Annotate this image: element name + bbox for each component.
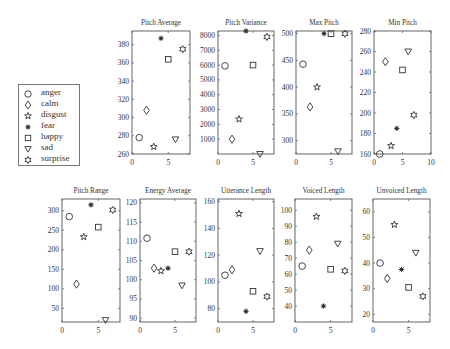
data-point-anger: [66, 213, 73, 220]
y-tick-label: 20: [363, 310, 371, 319]
data-point-sad: [334, 241, 341, 247]
y-tick-label: 2000: [200, 120, 215, 129]
panel-voiced-length: Voiced Length40506070809010005: [281, 187, 352, 335]
data-point-surprise: [180, 46, 186, 53]
square-marker-icon: [23, 133, 33, 143]
data-point-fear: [399, 267, 404, 272]
x-tick-label: 0: [60, 326, 64, 335]
hexagram-marker-icon: [23, 155, 33, 165]
legend: angercalmdisgustfearhappysadsurprise: [18, 84, 80, 166]
data-point-disgust: [314, 84, 321, 91]
x-tick-label: 5: [407, 326, 411, 335]
legend-label: surprise: [41, 153, 70, 163]
y-tick-label: 280: [118, 131, 130, 140]
x-tick-label: 0: [130, 158, 134, 167]
panel-title: Energy Average: [145, 187, 191, 195]
panel-pitch-variance: Pitch Variance10002000300040005000600070…: [200, 19, 274, 167]
y-tick-label: 350: [282, 109, 294, 118]
data-point-calm: [229, 135, 235, 143]
data-point-sad: [179, 283, 186, 289]
data-point-fear: [243, 28, 248, 33]
chart-canvas: Pitch Average26028030032034036038005Pitc…: [0, 0, 450, 349]
y-tick-label: 340: [118, 77, 130, 86]
data-point-surprise: [420, 293, 426, 300]
data-point-calm: [74, 280, 80, 288]
data-point-happy: [400, 67, 406, 73]
data-point-disgust: [236, 116, 243, 123]
data-point-disgust: [80, 233, 87, 240]
data-point-calm: [306, 246, 312, 254]
y-tick-label: 80: [285, 238, 293, 247]
data-point-calm: [229, 266, 235, 274]
y-tick-label: 360: [118, 58, 130, 67]
y-tick-label: 300: [48, 206, 60, 215]
y-tick-label: 250: [48, 226, 60, 235]
y-tick-label: 100: [204, 277, 216, 286]
x-tick-label: 0: [138, 326, 142, 335]
data-point-fear: [243, 309, 248, 314]
y-tick-label: 200: [48, 245, 60, 254]
data-point-fear: [88, 202, 93, 207]
data-point-calm: [151, 264, 157, 272]
axes-box: [296, 31, 352, 154]
data-point-surprise: [411, 111, 417, 118]
x-tick-label: 5: [96, 326, 100, 335]
y-tick-label: 40: [285, 302, 293, 311]
y-tick-label: 60: [363, 207, 371, 216]
panel-pitch-range: Pitch Range5010015020025030005: [48, 187, 120, 335]
x-tick-label: 5: [166, 158, 170, 167]
data-point-happy: [250, 62, 256, 68]
panel-min-pitch: Min Pitch1601802002202402602800510: [360, 19, 435, 167]
legend-label: happy: [41, 131, 63, 141]
x-tick-label: 0: [371, 326, 375, 335]
data-point-disgust: [158, 267, 165, 274]
circle-marker-icon: [23, 89, 33, 99]
data-point-calm: [307, 103, 313, 111]
panel-title: Voiced Length: [303, 187, 345, 195]
y-tick-label: 160: [360, 150, 372, 159]
panel-utterance-length: Utterance Length8010012014016005: [204, 187, 274, 335]
y-tick-label: 105: [126, 256, 138, 265]
y-tick-label: 1000: [200, 135, 215, 144]
y-tick-label: 280: [360, 27, 372, 36]
y-tick-label: 300: [282, 136, 294, 145]
axes-box: [140, 199, 196, 322]
axes-box: [218, 31, 274, 154]
panel-pitch-average: Pitch Average26028030032034036038005: [118, 19, 190, 167]
y-tick-label: 180: [360, 129, 372, 138]
data-point-fear: [321, 303, 326, 308]
x-tick-label: 0: [216, 158, 220, 167]
data-point-fear: [158, 36, 163, 41]
y-tick-label: 160: [204, 197, 216, 206]
data-point-anger: [144, 235, 151, 242]
axes-box: [62, 199, 120, 322]
y-tick-label: 90: [130, 314, 138, 323]
x-tick-label: 5: [173, 326, 177, 335]
y-tick-label: 6000: [200, 61, 215, 70]
legend-label: calm: [41, 98, 59, 108]
y-tick-label: 100: [281, 206, 293, 215]
legend-label: fear: [41, 120, 55, 130]
y-tick-label: 80: [208, 304, 216, 313]
data-point-surprise: [186, 248, 192, 255]
legend-label: disgust: [41, 109, 67, 119]
star-marker-icon: [23, 111, 33, 121]
y-tick-label: 380: [118, 40, 130, 49]
y-tick-label: 140: [204, 224, 216, 233]
y-tick-label: 90: [285, 222, 293, 231]
data-point-anger: [222, 272, 229, 279]
data-point-happy: [406, 285, 412, 291]
y-tick-label: 50: [52, 304, 60, 313]
y-tick-label: 70: [285, 254, 293, 263]
data-point-happy: [250, 288, 256, 294]
legend-label: sad: [41, 142, 53, 152]
data-point-disgust: [150, 143, 157, 150]
y-tick-label: 50: [285, 286, 293, 295]
data-point-sad: [172, 137, 179, 143]
x-tick-label: 0: [216, 326, 220, 335]
data-point-happy: [95, 224, 101, 230]
panel-title: Unvoiced Length: [376, 187, 427, 195]
axes-box: [132, 31, 190, 154]
y-tick-label: 8000: [200, 31, 215, 40]
panel-max-pitch: Max Pitch30035040045050005: [282, 19, 352, 167]
